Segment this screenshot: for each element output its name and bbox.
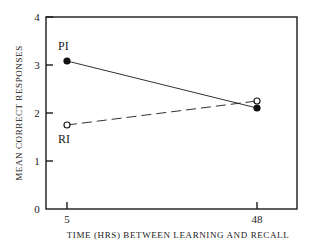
y-tick-label: 4	[34, 11, 40, 23]
y-tick-label: 2	[34, 107, 40, 119]
pi-point-5h	[63, 57, 70, 64]
ri-point-5h	[64, 122, 70, 128]
y-axis-title: MEAN CORRECT RESPONSES	[14, 45, 24, 181]
ri-point-48h	[254, 98, 260, 104]
plot-frame	[46, 17, 297, 209]
line-chart: 0 1 2 3 4 5 48 TIME (HRS) BETWEEN LEARNI…	[0, 0, 312, 249]
series-pi: PI	[58, 39, 261, 112]
y-axis: 0 1 2 3 4	[34, 11, 53, 215]
x-tick-label: 48	[252, 213, 264, 225]
x-axis-title: TIME (HRS) BETWEEN LEARNING AND RECALL	[67, 230, 290, 240]
pi-label: PI	[58, 39, 69, 53]
series-ri: RI	[58, 98, 260, 146]
y-tick-label: 3	[34, 59, 40, 71]
y-tick-label: 1	[34, 155, 40, 167]
x-axis: 5 48	[64, 202, 263, 225]
y-tick-label: 0	[34, 203, 40, 215]
x-tick-label: 5	[64, 213, 70, 225]
ri-label: RI	[58, 132, 70, 146]
pi-point-48h	[253, 104, 260, 111]
